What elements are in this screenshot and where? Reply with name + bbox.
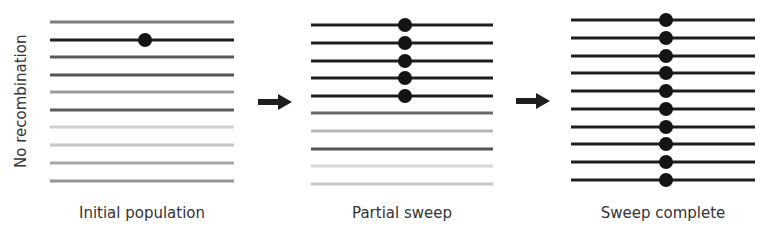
beneficial-mutation-dot [659, 155, 673, 169]
panel-title-sweep-complete: Sweep complete [563, 204, 763, 222]
arrow-right-icon [258, 94, 292, 110]
arrow-right-icon [516, 93, 550, 109]
beneficial-mutation-dot [398, 89, 412, 103]
beneficial-mutation-dot [659, 84, 673, 98]
beneficial-mutation-dot [398, 36, 412, 50]
panel-title-initial-population: Initial population [42, 204, 242, 222]
beneficial-mutation-dot [659, 102, 673, 116]
beneficial-mutation-dot [659, 137, 673, 151]
selective-sweep-diagram: No recombination Initial population Part… [0, 0, 777, 244]
beneficial-mutation-dot [659, 66, 673, 80]
beneficial-mutation-dot [398, 71, 412, 85]
beneficial-mutation-dot [659, 173, 673, 187]
beneficial-mutation-dot [398, 18, 412, 32]
beneficial-mutation-dot [138, 33, 152, 47]
panel-title-partial-sweep: Partial sweep [302, 204, 502, 222]
beneficial-mutation-dot [398, 54, 412, 68]
beneficial-mutation-dot [659, 120, 673, 134]
beneficial-mutation-dot [659, 31, 673, 45]
beneficial-mutation-dot [659, 13, 673, 27]
y-axis-label: No recombination [12, 38, 30, 168]
beneficial-mutation-dot [659, 49, 673, 63]
